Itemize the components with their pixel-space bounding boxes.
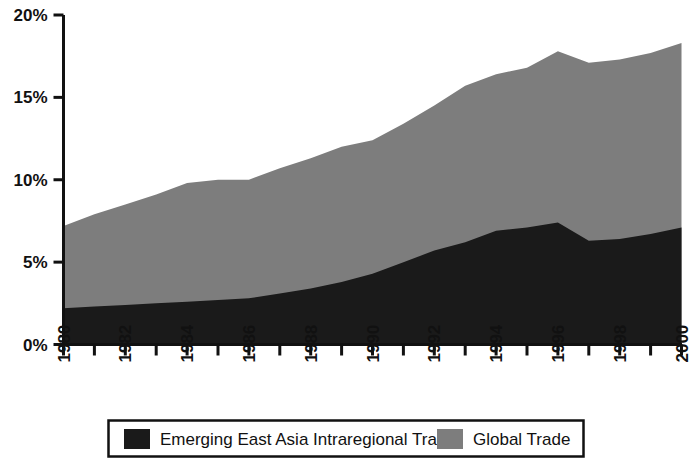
y-tick-label-15pct: 15% [13,88,47,107]
y-tick-label-10pct: 10% [13,171,47,190]
stacked-area-chart: 20%15%10%5%0% 19801982198419861988199019… [0,0,695,466]
y-tick-label-0pct: 0% [23,336,48,355]
x-tick-label-1992: 1992 [425,325,444,363]
x-tick-label-2000: 2000 [673,325,692,363]
x-tick-label-1990: 1990 [364,325,383,363]
x-tick-label-1982: 1982 [116,325,135,363]
x-tick-label-1994: 1994 [487,324,506,362]
x-tick-label-1988: 1988 [302,325,321,363]
y-tick-label-5pct: 5% [23,253,48,272]
x-tick-label-1996: 1996 [549,325,568,363]
legend-swatch-emerging-east-asia [124,429,150,449]
legend-swatch-global-trade [437,429,463,449]
y-tick-label-20pct: 20% [13,6,47,25]
x-tick-label-1980: 1980 [55,325,74,363]
legend-label-global-trade: Global Trade [473,430,570,449]
legend-label-emerging-east-asia: Emerging East Asia Intraregional Trade [160,430,456,449]
x-tick-label-1986: 1986 [240,325,259,363]
chart-container: 20%15%10%5%0% 19801982198419861988199019… [0,0,695,466]
x-tick-label-1984: 1984 [178,324,197,362]
x-tick-label-1998: 1998 [611,325,630,363]
legend: Emerging East Asia Intraregional Trade G… [109,421,584,457]
